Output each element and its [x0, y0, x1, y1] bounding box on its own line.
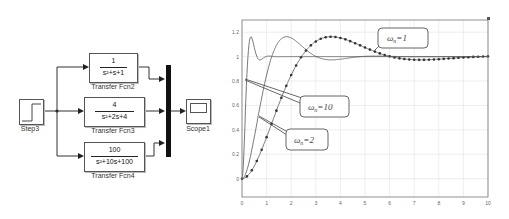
series-marker-wn1 [403, 58, 406, 61]
series-marker-wn1 [413, 58, 416, 61]
y-tick-label: 1 [236, 54, 239, 60]
series-marker-wn1 [438, 58, 441, 61]
series-marker-wn1 [310, 44, 313, 47]
series-marker-wn1 [369, 48, 372, 51]
series-marker-wn1 [280, 97, 283, 100]
series-marker-wn1 [344, 38, 347, 41]
y-tick-label: 1.2 [232, 29, 239, 35]
callout-wn10-pointer-b [245, 80, 300, 103]
callout-wn10-text: ωn=10 [308, 102, 333, 113]
series-marker-wn1 [324, 36, 327, 39]
callout-wn2: ωn=2 [259, 116, 328, 150]
x-tick-label: 9 [462, 200, 465, 206]
x-tick-label: 7 [413, 200, 416, 206]
series-marker-wn1 [349, 40, 352, 43]
series-marker-wn1 [334, 36, 337, 39]
x-tick-label: 0 [241, 200, 244, 206]
step-response-chart: 01234567891000.20.40.60.811.2 ωn=1 ωn=10… [0, 0, 509, 219]
series-marker-wn1 [378, 52, 381, 55]
series-marker-wn1 [265, 136, 268, 139]
callout-wn1: ωn=1 [375, 28, 428, 50]
series-marker-wn1 [251, 169, 254, 172]
y-tick-label: 0 [236, 176, 239, 182]
corner-marker [487, 17, 490, 20]
series-marker-wn1 [423, 59, 426, 62]
series-marker-wn1 [290, 74, 293, 77]
y-tick-label: 0.6 [232, 102, 239, 108]
series-marker-wn1 [364, 46, 367, 49]
y-tick-label: 0.8 [232, 78, 239, 84]
series-marker-wn1 [275, 109, 278, 112]
series-marker-wn1 [339, 37, 342, 40]
series-marker-wn1 [447, 57, 450, 60]
series-marker-wn1 [295, 64, 298, 67]
series-marker-wn1 [374, 50, 377, 53]
series-marker-wn1 [442, 58, 445, 61]
series-marker-wn1 [433, 58, 436, 61]
x-tick-label: 5 [364, 200, 367, 206]
x-tick-label: 6 [388, 200, 391, 206]
callout-wn2-text: ωn=2 [294, 135, 314, 146]
y-tick-label: 0.2 [232, 151, 239, 157]
x-tick-label: 10 [485, 200, 491, 206]
series-marker-wn1 [329, 35, 332, 38]
series-marker-wn1 [359, 44, 362, 47]
series-marker-wn1 [285, 85, 288, 88]
callout-wn2-pointer-a [259, 116, 286, 131]
series-marker-wn1 [418, 59, 421, 62]
callout-wn10: ωn=10 [245, 79, 349, 117]
series-marker-wn1 [408, 58, 411, 61]
series-marker-wn1 [246, 175, 249, 178]
callout-wn10-pointer-a [245, 79, 302, 98]
series-marker-wn1 [354, 42, 357, 45]
series-marker-wn1 [315, 40, 318, 43]
series-marker-wn1 [319, 37, 322, 40]
x-tick-label: 8 [437, 200, 440, 206]
series-marker-wn1 [260, 148, 263, 151]
series-marker-wn1 [398, 57, 401, 60]
x-tick-label: 4 [339, 200, 342, 206]
tick-labels: 01234567891000.20.40.60.811.2 [232, 29, 491, 206]
series-marker-wn1 [428, 58, 431, 61]
x-tick-label: 2 [290, 200, 293, 206]
x-tick-label: 1 [265, 200, 268, 206]
x-tick-label: 3 [314, 200, 317, 206]
series-marker-wn1 [255, 160, 258, 163]
y-tick-label: 0.4 [232, 127, 239, 133]
callout-wn1-text: ωn=1 [387, 33, 407, 44]
series-marker-wn1 [452, 57, 455, 60]
